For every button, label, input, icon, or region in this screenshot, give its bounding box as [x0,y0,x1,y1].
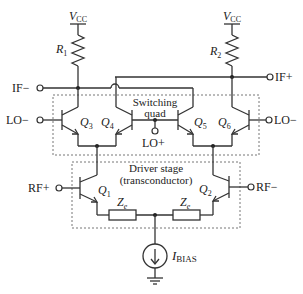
ground-icon [147,278,163,284]
q3-label: Q3 [80,115,93,131]
driver-stage-label-2: (transconductor) [120,174,193,187]
lo-plus-terminal [152,128,158,134]
ibias-label: IBIAS [171,248,197,264]
ze-left-resistor [109,210,136,220]
ze-right-resistor [173,210,200,220]
transistor-q5 [178,88,193,146]
r2-label: R2 [209,44,221,60]
r2-resistor [226,35,238,66]
if-minus-terminal [37,85,43,91]
lo-minus-left-label: LO− [6,113,29,127]
vcc-right-supply [224,24,240,77]
transistor-q3 [43,88,78,146]
ze-left-label: Ze [117,195,128,211]
q1-label: Q1 [98,183,111,199]
lo-plus-label: LO+ [142,136,165,150]
lo-minus-right-label: LO− [274,113,297,127]
if-plus-label: IF+ [275,70,293,84]
q2-label: Q2 [199,182,212,198]
ze-right-label: Ze [180,195,191,211]
q6-label: Q6 [218,115,231,131]
r1-resistor [72,35,84,66]
rf-minus-terminal [248,184,254,190]
lo-minus-left-terminal [37,117,43,123]
transistor-q2 [200,146,248,215]
gilbert-cell-schematic: VCC R1 VCC R2 IF− IF+ LO− Q3 Q4 [0,0,303,294]
lo-minus-right-terminal [266,117,272,123]
q4-label: Q4 [101,115,114,131]
rf-plus-terminal [56,185,62,191]
if-minus-label: IF− [12,81,30,95]
if-plus-terminal [267,74,273,80]
vcc-left-label: VCC [69,9,87,24]
wire-crossover-hop [111,84,119,88]
rf-minus-label: RF− [256,180,278,194]
q5-label: Q5 [194,115,207,131]
r1-label: R1 [55,42,67,58]
transistor-q6 [232,77,266,146]
switching-quad-label-2: quad [144,107,166,119]
driver-stage-label-1: Driver stage [129,162,183,174]
rf-plus-label: RF+ [28,181,50,195]
vcc-right-label: VCC [223,9,241,24]
transistor-q1 [62,146,109,215]
vcc-left-supply [70,24,86,88]
